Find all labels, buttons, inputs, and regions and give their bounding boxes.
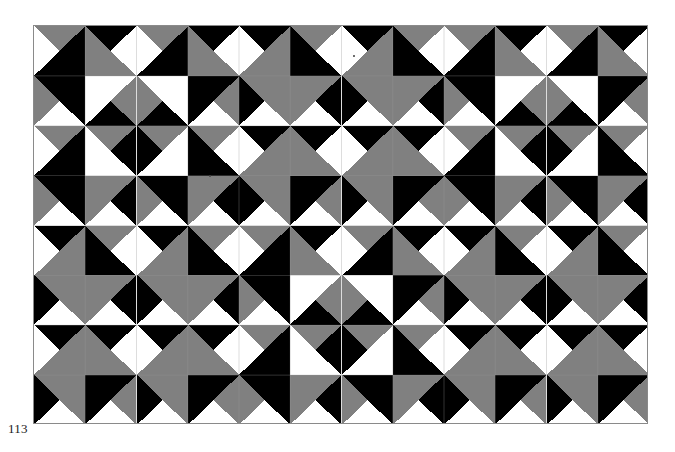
hst-unit	[137, 325, 188, 375]
hst-unit	[598, 126, 648, 176]
hst-unit	[85, 176, 136, 226]
hst-unit	[598, 76, 648, 126]
hst-unit	[342, 226, 393, 276]
hst-unit	[188, 325, 239, 375]
hst-unit	[188, 275, 239, 325]
hst-unit	[85, 325, 136, 375]
hst-unit	[34, 275, 85, 325]
hst-unit	[393, 325, 444, 375]
hst-unit	[85, 226, 136, 276]
hst-unit	[547, 176, 598, 226]
hst-unit	[393, 275, 444, 325]
hst-unit	[290, 76, 341, 126]
hst-unit	[342, 375, 393, 424]
hst-unit	[290, 325, 341, 375]
quilt-pattern-plate	[33, 25, 648, 424]
hst-unit	[239, 176, 290, 226]
hst-unit	[290, 176, 341, 226]
hst-unit	[137, 126, 188, 176]
hst-unit	[598, 375, 648, 424]
hst-unit	[444, 325, 495, 375]
hst-unit	[598, 226, 648, 276]
hst-unit	[495, 226, 546, 276]
hst-unit	[188, 76, 239, 126]
hst-unit	[290, 126, 341, 176]
hst-unit	[547, 226, 598, 276]
hst-unit	[239, 126, 290, 176]
hst-unit	[547, 325, 598, 375]
hst-unit	[547, 26, 598, 76]
quilt-block-b-r1c0	[34, 226, 239, 425]
quilt-block-b-r1c2	[444, 226, 648, 425]
hst-unit	[34, 26, 85, 76]
hst-unit	[495, 325, 546, 375]
hst-unit	[290, 275, 341, 325]
hst-unit	[85, 375, 136, 424]
hst-unit	[34, 226, 85, 276]
hst-unit	[393, 226, 444, 276]
quilt-block-a-r0c2	[444, 26, 648, 226]
hst-unit	[188, 126, 239, 176]
hst-unit	[444, 76, 495, 126]
hst-unit	[342, 26, 393, 76]
hst-unit	[188, 176, 239, 226]
hst-unit	[547, 375, 598, 424]
hst-unit	[444, 375, 495, 424]
hst-unit	[290, 226, 341, 276]
hst-unit	[137, 76, 188, 126]
hst-unit	[85, 126, 136, 176]
hst-unit	[547, 126, 598, 176]
hst-unit	[598, 26, 648, 76]
hst-unit	[85, 26, 136, 76]
hst-unit	[342, 176, 393, 226]
hst-unit	[495, 375, 546, 424]
page-canvas: 113	[0, 0, 675, 452]
hst-unit	[598, 176, 648, 226]
hst-unit	[85, 76, 136, 126]
hst-unit	[393, 126, 444, 176]
hst-unit	[342, 325, 393, 375]
hst-unit	[239, 275, 290, 325]
hst-unit	[495, 126, 546, 176]
hst-unit	[34, 325, 85, 375]
hst-unit	[137, 26, 188, 76]
hst-unit	[137, 226, 188, 276]
hst-unit	[495, 176, 546, 226]
quilt-block-grid	[34, 26, 648, 424]
hst-unit	[34, 126, 85, 176]
page-number: 113	[8, 421, 28, 437]
hst-unit	[393, 26, 444, 76]
hst-unit	[495, 76, 546, 126]
hst-unit	[393, 76, 444, 126]
hst-unit	[239, 325, 290, 375]
hst-unit	[290, 375, 341, 424]
hst-unit	[342, 126, 393, 176]
hst-unit	[239, 375, 290, 424]
hst-unit	[239, 76, 290, 126]
hst-unit	[290, 26, 341, 76]
hst-unit	[547, 275, 598, 325]
hst-unit	[444, 176, 495, 226]
quilt-block-a-r1c1	[239, 226, 444, 425]
hst-unit	[188, 26, 239, 76]
hst-unit	[495, 275, 546, 325]
hst-unit	[444, 226, 495, 276]
hst-unit	[188, 375, 239, 424]
hst-unit	[137, 176, 188, 226]
hst-unit	[393, 176, 444, 226]
hst-unit	[239, 26, 290, 76]
quilt-block-a-r0c0	[34, 26, 239, 226]
hst-unit	[444, 275, 495, 325]
hst-unit	[137, 275, 188, 325]
hst-unit	[547, 76, 598, 126]
hst-unit	[137, 375, 188, 424]
hst-unit	[188, 226, 239, 276]
hst-unit	[444, 126, 495, 176]
hst-unit	[342, 76, 393, 126]
hst-unit	[34, 76, 85, 126]
hst-unit	[85, 275, 136, 325]
quilt-block-b-r0c1	[239, 26, 444, 226]
hst-unit	[444, 26, 495, 76]
hst-unit	[393, 375, 444, 424]
hst-unit	[598, 275, 648, 325]
